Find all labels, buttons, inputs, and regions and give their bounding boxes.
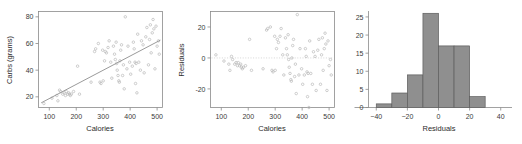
scatter-x-axis-title: Calories — [86, 124, 114, 133]
residual-y-axis-ticks: -20020 — [195, 24, 210, 93]
scatter-point — [143, 72, 146, 75]
residual-point — [322, 69, 325, 72]
histogram-x-tick-label: −40 — [370, 113, 382, 120]
residual-point — [301, 83, 304, 86]
scatter-point — [147, 64, 150, 67]
residual-y-tick-label: 0 — [202, 55, 206, 62]
scatter-point — [139, 69, 142, 72]
panel-scatter-carbs-vs-calories: 20406080 100200300400500 Calories Carbs … — [0, 0, 174, 144]
residual-point — [294, 63, 297, 66]
residual-plot-frame — [211, 12, 335, 108]
residual-point — [244, 64, 247, 67]
scatter-point — [117, 74, 120, 77]
scatter-point — [108, 40, 111, 43]
scatter-point — [151, 32, 154, 35]
scatter-point — [121, 74, 124, 77]
residual-point — [287, 58, 290, 61]
residual-point — [277, 41, 280, 44]
residual-point — [276, 38, 279, 41]
scatter-point — [113, 53, 116, 56]
histogram-bar — [439, 46, 455, 108]
scatter-plot-svg: 20406080 100200300400500 Calories Carbs … — [0, 0, 174, 144]
histogram-y-tick-label: 20 — [356, 32, 364, 39]
residual-point — [287, 33, 290, 36]
residual-point — [305, 55, 308, 58]
scatter-point — [126, 68, 129, 71]
scatter-point — [109, 61, 112, 64]
scatter-y-tick-label: 40 — [26, 67, 34, 74]
histogram-bar — [470, 97, 486, 108]
scatter-point — [122, 64, 125, 67]
histogram-svg: 0510152025 −40−2002040 Residuals — [344, 0, 522, 144]
residual-point — [312, 51, 315, 54]
residual-point — [230, 55, 233, 58]
scatter-point — [124, 16, 127, 19]
scatter-x-tick-label: 300 — [97, 113, 109, 120]
scatter-point — [72, 90, 75, 93]
scatter-point — [65, 90, 68, 93]
residual-x-tick-label: 200 — [242, 113, 254, 120]
scatter-point — [94, 48, 97, 51]
residual-point — [300, 68, 303, 71]
panel-histogram-of-residuals: 0510152025 −40−2002040 Residuals — [344, 0, 522, 144]
scatter-point — [136, 92, 139, 95]
residual-point — [325, 43, 328, 46]
scatter-regression-line — [41, 40, 160, 103]
scatter-point — [90, 81, 93, 84]
residual-point — [298, 74, 301, 77]
residual-point — [296, 13, 299, 16]
residual-point — [285, 47, 288, 50]
residual-point — [279, 35, 282, 38]
residual-x-tick-label: 100 — [215, 113, 227, 120]
residual-point — [284, 37, 287, 40]
residual-point — [315, 89, 318, 92]
residual-x-axis-title: Calories — [258, 124, 286, 133]
scatter-point — [150, 52, 153, 55]
residual-point — [299, 47, 302, 50]
scatter-y-tick-label: 60 — [26, 40, 34, 47]
residual-y-tick-label: -20 — [195, 86, 205, 93]
residual-point — [293, 75, 296, 78]
residual-x-tick-label: 300 — [269, 113, 281, 120]
residual-point — [289, 72, 292, 75]
scatter-point — [134, 82, 137, 85]
scatter-point — [142, 44, 145, 47]
residual-point — [321, 37, 324, 40]
residual-x-axis-ticks: 100200300400500 — [215, 108, 335, 120]
panel-residuals-vs-calories: -20020 100200300400500 Calories Residual… — [168, 0, 346, 144]
scatter-y-tick-label: 20 — [26, 93, 34, 100]
histogram-bar — [423, 13, 439, 107]
residual-point — [274, 69, 277, 72]
scatter-point — [116, 69, 119, 72]
scatter-point — [128, 61, 131, 64]
residual-point — [269, 26, 272, 29]
residual-y-axis-title: Residuals — [177, 43, 186, 76]
scatter-point — [93, 50, 96, 53]
scatter-point — [115, 41, 118, 44]
scatter-point — [120, 44, 123, 47]
residual-y-tick-label: 20 — [198, 24, 206, 31]
scatter-point — [112, 45, 115, 48]
scatter-point — [149, 24, 152, 27]
residual-point — [320, 54, 323, 57]
residual-point — [318, 38, 321, 41]
histogram-x-axis-title: Residuals — [423, 124, 456, 133]
residual-x-tick-label: 500 — [323, 113, 335, 120]
residual-point — [291, 44, 294, 47]
scatter-x-axis-ticks: 100200300400500 — [43, 108, 163, 120]
scatter-point — [155, 25, 158, 28]
scatter-x-tick-label: 200 — [70, 113, 82, 120]
scatter-y-axis-ticks: 20406080 — [26, 13, 39, 100]
scatter-point — [146, 26, 149, 29]
scatter-data-points — [43, 16, 161, 105]
scatter-point — [101, 49, 104, 52]
residual-point — [295, 92, 298, 95]
scatter-point — [136, 33, 139, 36]
residual-point — [250, 69, 253, 72]
histogram-x-tick-label: 0 — [437, 113, 441, 120]
histogram-x-tick-label: 20 — [466, 113, 474, 120]
scatter-point — [57, 100, 60, 103]
histogram-y-tick-label: 5 — [360, 86, 364, 93]
scatter-point — [107, 46, 110, 49]
residual-point — [304, 47, 307, 50]
